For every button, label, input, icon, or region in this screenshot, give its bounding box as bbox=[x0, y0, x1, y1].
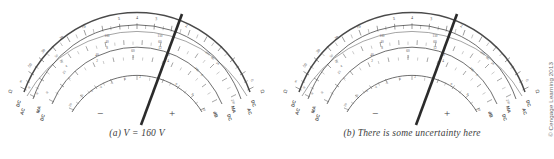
voltage-tick-label: 20 bbox=[334, 58, 339, 63]
voltage-tick-label: 16 bbox=[215, 61, 220, 66]
voltage-unit-left-dc: DC bbox=[290, 99, 297, 108]
plus-polarity-sign: + bbox=[169, 107, 175, 119]
voltage-tick-label: 4 bbox=[64, 64, 68, 68]
voltage-scale-b: 100 40 8 150 60 12 50 20 4 200 80 16 0 0… bbox=[290, 25, 532, 116]
ohms-tick-label: ∞ bbox=[18, 79, 24, 84]
meter-dial-a: ∞ 50 30 20 10 5 4 3 2 0 Ω Ω bbox=[0, 0, 274, 132]
voltage-tick-label: 200 bbox=[204, 50, 211, 56]
voltage-tick-label: 250 bbox=[505, 98, 511, 105]
voltage-tick-label: 0 bbox=[35, 92, 39, 95]
current-tick-label: 0 bbox=[320, 91, 324, 94]
ohms-tick-label: 4 bbox=[136, 15, 139, 20]
ohms-tick-label: 0 bbox=[250, 78, 255, 82]
decibel-scale-a: -20 -10 -6 -4 -2 0 2 4 6 8 10 dB − + bbox=[67, 75, 219, 119]
db-tick-label: 6 bbox=[450, 82, 453, 86]
current-tick-label: 4 bbox=[167, 59, 169, 63]
meter-needle bbox=[141, 14, 182, 125]
ohms-tick-label: 3 bbox=[155, 16, 158, 21]
current-tick-label: 40 bbox=[370, 53, 374, 57]
current-scale-a: 40 2 60 3 80 4 20 1 100 5 0 MA DC MA DC bbox=[35, 47, 237, 122]
ohms-tick-label: 30 bbox=[40, 48, 46, 55]
db-unit-label: dB bbox=[487, 111, 494, 119]
current-tick-label: 60 bbox=[406, 49, 410, 53]
figure-caption-a: (a) V = 160 V bbox=[0, 128, 274, 138]
voltage-tick-label: 4 bbox=[339, 64, 343, 68]
db-tick-label: -20 bbox=[67, 102, 73, 108]
voltage-tick-label: 8 bbox=[106, 46, 108, 50]
db-tick-label: 0 bbox=[399, 77, 402, 81]
meter-panel-a: ∞ 50 30 20 10 5 4 3 2 0 Ω Ω bbox=[0, 0, 274, 159]
voltage-tick-label: 100 bbox=[104, 34, 109, 38]
voltage-unit-left-ac: AC bbox=[294, 107, 301, 116]
voltage-tick-label: 80 bbox=[210, 56, 215, 61]
voltage-tick-label: 150 bbox=[157, 34, 162, 38]
voltage-tick-label: 60 bbox=[158, 40, 162, 44]
ohms-tick-label: 4 bbox=[411, 15, 414, 20]
voltage-tick-label: 0 bbox=[27, 86, 31, 89]
voltage-tick-label: 16 bbox=[490, 61, 495, 66]
ohms-tick-label: 50 bbox=[302, 62, 309, 68]
voltage-unit-left-ac: AC bbox=[19, 107, 26, 116]
figure-caption-b: (b) There is some uncertainty here bbox=[275, 128, 549, 138]
current-unit-right-dc: DC bbox=[226, 114, 233, 123]
current-scale-b: 40 2 60 3 80 4 20 1 100 5 0 MA DC MA DC bbox=[310, 47, 512, 122]
minus-polarity-sign: − bbox=[372, 107, 378, 119]
db-tick-label: 6 bbox=[175, 82, 178, 86]
db-tick-label: 2 bbox=[414, 75, 416, 79]
voltage-tick-label: 0 bbox=[302, 86, 306, 89]
current-tick-label: 40 bbox=[95, 53, 99, 57]
ohms-tick-label: 5 bbox=[118, 16, 121, 21]
current-unit-left-ma: MA bbox=[35, 105, 42, 114]
db-tick-label: -4 bbox=[98, 85, 103, 90]
voltage-tick-label: 60 bbox=[433, 40, 437, 44]
voltage-unit-right-ac: AC bbox=[246, 108, 253, 117]
ohms-tick-label: 20 bbox=[58, 34, 64, 40]
db-tick-label: -2 bbox=[110, 81, 114, 86]
ohms-unit-left: Ω bbox=[7, 88, 14, 94]
voltage-tick-label: 20 bbox=[59, 58, 64, 63]
voltage-tick-label: 40 bbox=[380, 40, 384, 44]
db-tick-label: -2 bbox=[385, 81, 389, 86]
ohms-tick-label: 20 bbox=[333, 34, 339, 40]
current-unit-left-dc: DC bbox=[314, 113, 321, 122]
voltage-tick-label: 200 bbox=[479, 50, 486, 56]
voltage-tick-label: 250 bbox=[230, 98, 236, 105]
plus-polarity-sign: + bbox=[444, 107, 450, 119]
db-tick-label: -4 bbox=[373, 85, 378, 90]
db-tick-label: -20 bbox=[342, 102, 348, 108]
ohms-tick-label: 2 bbox=[460, 23, 464, 28]
current-unit-right-dc: DC bbox=[501, 114, 508, 123]
db-tick-label: 0 bbox=[124, 77, 127, 81]
current-unit-left-dc: DC bbox=[39, 113, 46, 122]
db-tick-label: -10 bbox=[353, 93, 359, 99]
db-tick-label: 2 bbox=[139, 75, 141, 79]
voltage-tick-label: 40 bbox=[105, 40, 109, 44]
ohms-tick-label: 0 bbox=[525, 78, 530, 82]
db-unit-label: dB bbox=[212, 111, 219, 119]
meter-panel-b: ∞ 50 30 20 10 5 4 3 2 0 Ω Ω bbox=[275, 0, 549, 159]
current-tick-label: 3 bbox=[132, 55, 134, 59]
current-tick-label: 4 bbox=[442, 59, 444, 63]
voltage-tick-label: 0 bbox=[310, 92, 314, 95]
voltage-tick-label: 100 bbox=[379, 34, 384, 38]
ohms-tick-label: 5 bbox=[393, 16, 396, 21]
current-tick-label: 20 bbox=[62, 69, 67, 74]
copyright-notice: © Cengage Learning 2013 bbox=[547, 62, 554, 137]
decibel-scale-b: -20 -10 -6 -4 -2 0 2 4 6 8 10 dB − + bbox=[342, 75, 494, 119]
voltage-tick-label: 80 bbox=[485, 56, 490, 61]
ohms-unit-right: Ω bbox=[259, 89, 266, 95]
current-tick-label: 20 bbox=[337, 69, 342, 74]
ohms-unit-right: Ω bbox=[534, 89, 541, 95]
ohms-tick-label: 2 bbox=[185, 23, 189, 28]
current-unit-left-ma: MA bbox=[310, 105, 317, 114]
meter-needle bbox=[416, 14, 457, 125]
current-tick-label: 0 bbox=[45, 91, 49, 94]
meter-dial-b: ∞ 50 30 20 10 5 4 3 2 0 Ω Ω bbox=[275, 0, 549, 132]
ohms-tick-label: 30 bbox=[315, 48, 321, 55]
current-tick-label: 60 bbox=[131, 49, 135, 53]
current-tick-label: 2 bbox=[96, 59, 98, 63]
ohms-tick-label: 3 bbox=[430, 16, 433, 21]
voltage-unit-left-dc: DC bbox=[15, 99, 22, 108]
db-tick-label: -10 bbox=[78, 93, 84, 99]
minus-polarity-sign: − bbox=[97, 107, 103, 119]
